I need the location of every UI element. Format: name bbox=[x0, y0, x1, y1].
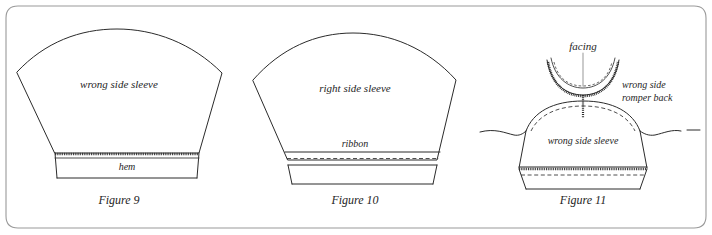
figure-11-hem-right-edge bbox=[640, 169, 647, 189]
figure-11-sleeve-cap-stitch-line bbox=[531, 106, 635, 131]
figure-11-romper-back-right-edge bbox=[640, 130, 681, 135]
figure-9-sleeve-outline bbox=[17, 29, 222, 153]
figure-9-body-label: wrong side sleeve bbox=[80, 78, 158, 90]
figure-11-hem-left-edge bbox=[519, 169, 526, 189]
figure-9-hem-label: hem bbox=[119, 161, 136, 172]
figure-10-ribbon-label: ribbon bbox=[342, 138, 369, 149]
sewing-diagram-page: wrong side sleeve hem Figure 9 right sid… bbox=[0, 0, 712, 235]
figure-10-group: right side sleeve ribbon Figure 10 bbox=[253, 33, 456, 207]
diagram-canvas: wrong side sleeve hem Figure 9 right sid… bbox=[0, 0, 712, 235]
figure-9-group: wrong side sleeve hem Figure 9 bbox=[17, 29, 222, 207]
figure-11-facing-label: facing bbox=[569, 40, 597, 52]
figure-9-hem-left-edge bbox=[55, 153, 57, 178]
figure-11-body-label: wrong side sleeve bbox=[548, 135, 619, 146]
figure-10-body-label: right side sleeve bbox=[319, 82, 391, 94]
figure-11-sleeve-right-side bbox=[640, 131, 647, 168]
figure-11-caption: Figure 11 bbox=[559, 193, 606, 207]
figure-10-hem-right-edge bbox=[433, 165, 437, 184]
figure-11-sleeve-left-side bbox=[519, 131, 526, 168]
figure-10-hem-left-edge bbox=[288, 165, 292, 184]
figure-11-romper-back-label-line1: wrong side bbox=[622, 79, 666, 90]
figure-11-group: facing wrong side romper back wrong side… bbox=[480, 40, 700, 207]
figure-11-romper-back-label-line2: romper back bbox=[622, 92, 673, 103]
figure-9-hem-right-edge bbox=[197, 153, 199, 178]
figure-11-romper-back-left-edge bbox=[480, 130, 526, 135]
figure-9-caption: Figure 9 bbox=[97, 193, 139, 207]
figure-10-caption: Figure 10 bbox=[330, 193, 378, 207]
